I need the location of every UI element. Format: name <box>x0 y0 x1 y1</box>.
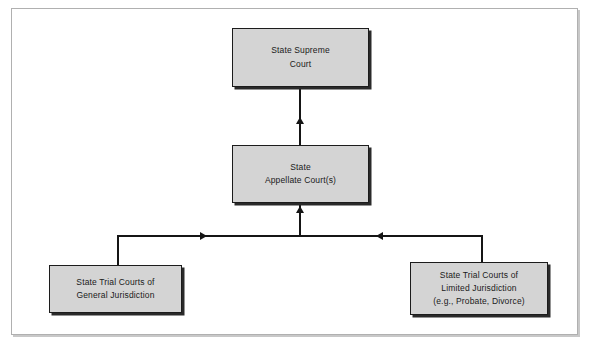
node-label-trial-general: State Trial Courts of General Jurisdicti… <box>70 276 160 302</box>
node-label-line: State Trial Courts of <box>76 276 154 289</box>
node-label-line: State <box>265 161 336 174</box>
edge-appellate-to-supreme <box>299 87 301 145</box>
arrowhead-right-from-trial-general-icon <box>200 232 207 240</box>
node-state-trial-courts-limited: State Trial Courts of Limited Jurisdicti… <box>410 262 548 315</box>
node-label-line: State Supreme <box>271 44 330 57</box>
arrowhead-left-from-trial-limited-icon <box>376 232 383 240</box>
figure-canvas: State Supreme Court State Appellate Cour… <box>0 0 590 347</box>
node-label-line: Limited Jurisdiction <box>433 282 524 295</box>
edge-drop-to-trial-limited <box>481 235 483 262</box>
node-state-appellate-courts: State Appellate Court(s) <box>232 145 369 203</box>
node-label-supreme: State Supreme Court <box>265 44 336 70</box>
node-state-supreme-court: State Supreme Court <box>232 28 369 87</box>
arrowhead-up-to-supreme-icon <box>296 117 304 124</box>
edge-drop-to-trial-general <box>117 235 119 265</box>
edge-trial-courts-bus <box>118 235 482 237</box>
node-state-trial-courts-general: State Trial Courts of General Jurisdicti… <box>49 265 182 313</box>
node-label-line: State Trial Courts of <box>433 269 524 282</box>
node-label-line: Appellate Court(s) <box>265 174 336 187</box>
node-label-line: Court <box>271 58 330 71</box>
arrowhead-up-to-appellate-icon <box>296 206 304 213</box>
node-label-line: General Jurisdiction <box>76 289 154 302</box>
node-label-line: (e.g., Probate, Divorce) <box>433 295 524 308</box>
node-label-trial-limited: State Trial Courts of Limited Jurisdicti… <box>427 269 530 309</box>
node-label-appellate: State Appellate Court(s) <box>259 161 342 187</box>
